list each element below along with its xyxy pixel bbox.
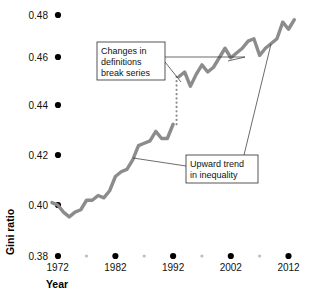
gini-ratio-chart: 0.48 0.46 0.44 0.42 0.40 0.38 1972 1982 … xyxy=(0,0,310,297)
chart-canvas: 0.48 0.46 0.44 0.42 0.40 0.38 1972 1982 … xyxy=(0,0,310,297)
y-tick-label-3: 0.42 xyxy=(29,150,49,161)
x-tick-label-4: 2012 xyxy=(277,262,300,273)
annotation-break-note: Changes in definitions break series xyxy=(97,42,165,80)
y-tick-label-4: 0.40 xyxy=(29,200,49,211)
y-axis-tick-dots xyxy=(55,12,61,259)
annotation-trend-note-line-0: Upward trend xyxy=(190,159,244,169)
y-tick-label-0: 0.48 xyxy=(29,10,49,21)
x-axis-tick-labels: 1972 1982 1992 2002 2012 xyxy=(47,262,300,273)
y-tick-dot-0.44 xyxy=(55,102,61,108)
leader-trend-note-to-left-series xyxy=(133,158,186,166)
x-minor-tick-dot-1987 xyxy=(143,254,146,257)
x-minor-tick-dot-1977 xyxy=(85,254,88,257)
data-series-group xyxy=(52,20,294,217)
annotation-break-note-line-2: break series xyxy=(101,68,151,78)
y-axis-title: Gini ratio xyxy=(4,209,16,255)
y-tick-dot-0.48 xyxy=(55,12,61,18)
x-tick-label-2: 1992 xyxy=(162,262,185,273)
y-tick-dot-0.42 xyxy=(55,152,61,158)
x-tick-label-1: 1982 xyxy=(104,262,127,273)
y-axis-tick-labels: 0.48 0.46 0.44 0.42 0.40 0.38 xyxy=(29,10,49,262)
x-tick-dot-1982 xyxy=(112,253,118,259)
annotation-trend-note-line-1: in inequality xyxy=(190,170,238,180)
x-minor-tick-dot-1997 xyxy=(200,254,203,257)
y-tick-label-5: 0.38 xyxy=(29,251,49,262)
y-tick-dot-0.46 xyxy=(55,54,61,60)
y-tick-label-2: 0.44 xyxy=(29,100,49,111)
y-tick-label-1: 0.46 xyxy=(29,52,49,63)
annotation-break-note-line-1: definitions xyxy=(101,57,142,67)
series-line-pre-break xyxy=(52,124,173,217)
x-tick-dot-1992 xyxy=(170,253,176,259)
x-tick-dot-2002 xyxy=(228,253,234,259)
x-tick-dot-2012 xyxy=(285,253,291,259)
x-tick-label-3: 2002 xyxy=(220,262,243,273)
series-line-post-break xyxy=(179,20,294,87)
annotation-break-note-line-0: Changes in xyxy=(101,46,147,56)
x-minor-tick-dot-2007 xyxy=(258,254,261,257)
leader-trend-note-to-right-series xyxy=(244,44,271,155)
y-tick-dot-0.38 xyxy=(55,253,61,259)
leader-break-note-to-series xyxy=(165,62,181,82)
x-tick-label-0: 1972 xyxy=(47,262,70,273)
annotation-trend-note: Upward trend in inequality xyxy=(186,155,258,183)
x-axis-title: Year xyxy=(46,278,68,290)
